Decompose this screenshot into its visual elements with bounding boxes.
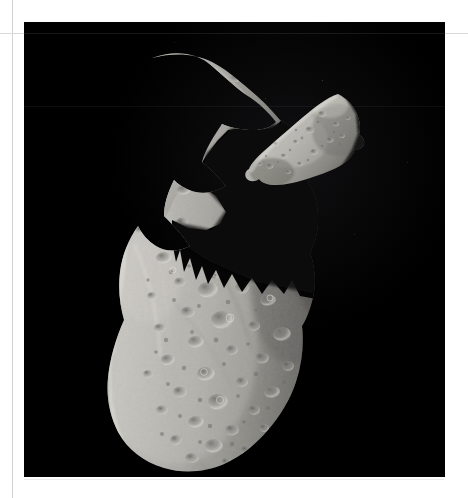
primary-body-label: large irregular cratered asteroid <box>0 0 1 1</box>
asteroid-photograph[interactable] <box>24 22 445 477</box>
vertical-rule-line <box>12 0 13 498</box>
secondary-asteroid-shape <box>242 78 372 198</box>
secondary-asteroid-moon <box>242 78 372 198</box>
image-lighting-label: strong side lighting from the left, deep… <box>0 0 1 1</box>
secondary-body-label: small companion moon <box>0 0 1 1</box>
page-canvas: two-asteroid-photograph spacecraft photo… <box>0 0 468 498</box>
image-subject-label: two-asteroid-photograph <box>0 0 1 1</box>
image-scene-type-label: spacecraft photograph of asteroid and it… <box>0 0 1 1</box>
lower-rule-line <box>24 479 444 480</box>
